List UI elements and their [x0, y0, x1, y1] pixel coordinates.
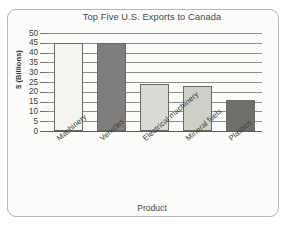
y-tick-mark	[40, 111, 47, 112]
y-tick-label: 25	[8, 77, 38, 88]
y-tick-mark	[40, 53, 47, 54]
y-tick-label: 5	[8, 116, 38, 127]
y-tick-mark	[40, 82, 47, 83]
chart-figure: Top Five U.S. Exports to Canada $ (Billi…	[0, 0, 288, 231]
y-tick-label: 10	[8, 106, 38, 117]
x-axis-label: Product	[38, 203, 266, 213]
y-tick-mark	[40, 43, 47, 44]
y-tick-label: 20	[8, 86, 38, 97]
chart-title: Top Five U.S. Exports to Canada	[36, 12, 268, 22]
y-tick-mark	[40, 62, 47, 63]
y-tick-label: 50	[8, 28, 38, 39]
y-tick-mark	[40, 131, 47, 132]
y-tick-mark	[40, 72, 47, 73]
y-tick-label: 15	[8, 96, 38, 107]
gridline-50	[47, 33, 262, 34]
y-tick-label: 30	[8, 67, 38, 78]
y-tick-label: 0	[8, 126, 38, 137]
y-tick-label: 40	[8, 47, 38, 58]
y-tick-mark	[40, 33, 47, 34]
y-tick-label: 35	[8, 57, 38, 68]
y-tick-mark	[40, 102, 47, 103]
y-tick-mark	[40, 121, 47, 122]
y-tick-label: 45	[8, 37, 38, 48]
y-tick-mark	[40, 92, 47, 93]
y-axis-ticks: 05101520253035404550	[0, 0, 47, 131]
